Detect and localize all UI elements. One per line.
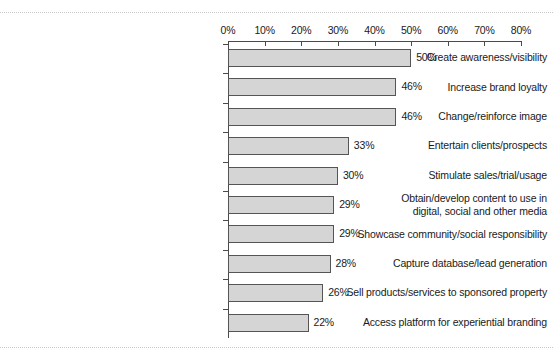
x-axis-tick [265,41,266,46]
category-label: Access platform for experiential brandin… [331,316,553,329]
y-axis-tick [223,309,228,310]
category-label: Showcase community/social responsibility [331,228,553,241]
x-axis-tick-label: 0% [221,24,236,36]
category-label: Entertain clients/prospects [331,139,553,152]
category-label: Change/reinforce image [331,110,553,123]
x-axis-tick-label: 70% [474,24,494,36]
x-axis-tick-label: 60% [438,24,458,36]
x-axis-tick [228,41,229,46]
bar [228,196,334,214]
category-label: Stimulate sales/trial/usage [331,169,553,182]
bar [228,284,323,302]
y-axis-tick [223,44,228,45]
y-axis-tick [223,73,228,74]
y-axis-tick [223,103,228,104]
bar [228,225,334,243]
plot-area: 0%10%20%30%40%50%60%70%80% 50%46%46%33%3… [0,0,553,362]
bar [228,167,338,185]
x-axis-tick-label: 10% [254,24,274,36]
y-axis-tick [223,162,228,163]
x-axis-tick-label: 80% [511,24,531,36]
y-axis-tick [223,132,228,133]
x-axis-tick [521,41,522,46]
bar-chart-figure: 0%10%20%30%40%50%60%70%80% 50%46%46%33%3… [0,0,553,362]
bar [228,314,309,332]
category-label: Increase brand loyalty [331,81,553,94]
x-axis-tick [448,41,449,46]
bar [228,255,331,273]
category-label: Sell products/services to sponsored prop… [331,286,553,299]
y-axis-tick [223,250,228,251]
x-axis-tick [338,41,339,46]
x-axis-tick [301,41,302,46]
category-label: Create awareness/visibility [331,51,553,64]
x-axis-tick [375,41,376,46]
y-axis-tick [223,191,228,192]
y-axis-tick [223,220,228,221]
x-axis-tick-label: 30% [328,24,348,36]
x-axis-tick [411,41,412,46]
x-axis-tick-label: 20% [291,24,311,36]
x-axis-tick-label: 50% [401,24,421,36]
x-axis-tick [484,41,485,46]
category-label: Capture database/lead generation [331,257,553,270]
category-label: Obtain/develop content to use in digital… [331,192,553,217]
y-axis-tick [223,279,228,280]
x-axis-tick-label: 40% [364,24,384,36]
